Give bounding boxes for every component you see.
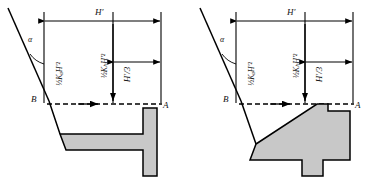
force-label-vertical: ½KₕH′²	[293, 54, 301, 78]
wall-back-face	[49, 101, 60, 134]
cantilever-wall-body	[60, 108, 157, 176]
dimension-label-third-height: H′/3	[315, 67, 324, 82]
dimension-label-total-height: H′	[287, 8, 295, 17]
point-label-a: A	[163, 101, 169, 110]
alpha-angle-label: α	[28, 36, 32, 44]
diagram-panel-left: α B A H′ H′/3 ½KₐH′² ½KₕH′²	[0, 0, 191, 183]
force-label-horizontal: ½KₐH′²	[248, 62, 256, 86]
dimension-label-total-height: H′	[95, 8, 103, 17]
retaining-wall-figure: α B A H′ H′/3 ½KₐH′² ½KₕH′²	[0, 0, 383, 183]
point-label-a: A	[355, 101, 361, 110]
backfill-slope-line	[8, 8, 49, 101]
point-label-b: B	[31, 95, 37, 104]
force-label-vertical: ½KₕH′²	[101, 54, 109, 78]
alpha-angle-label: α	[220, 36, 224, 44]
force-label-horizontal: ½KₐH′²	[56, 62, 64, 86]
wall-back-face	[241, 101, 256, 144]
backfill-slope-line	[200, 8, 241, 101]
panel-left-graphics	[0, 0, 191, 183]
dimension-label-third-height: H′/3	[123, 67, 132, 82]
diagram-panel-right: α B A H′ H′/3 ½KₐH′² ½KₕH′²	[192, 0, 383, 183]
gravity-wall-body	[250, 104, 350, 176]
panel-right-graphics	[192, 0, 383, 183]
point-label-b: B	[223, 95, 229, 104]
